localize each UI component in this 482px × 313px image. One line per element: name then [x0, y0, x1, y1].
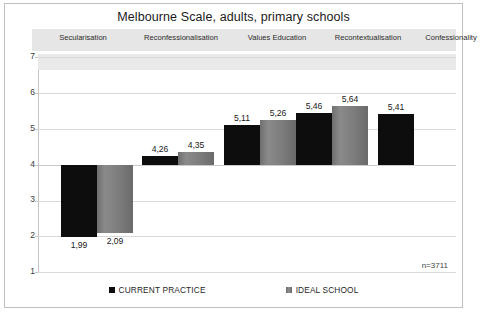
bar-current-values-education[interactable]	[224, 125, 260, 165]
bar-label-current-secularisation: 1,99	[59, 240, 99, 250]
y-tick-label-1: 1	[13, 266, 35, 276]
legend-entry-current-practice[interactable]: CURRENT PRACTICE	[109, 285, 206, 295]
plot-area: 1,99 2,09 4,26 4,35 5,11 5,26 5,46 5,64 …	[38, 54, 456, 276]
bar-label-ideal-recontextualisation: 5,64	[330, 94, 370, 104]
category-label-secularisation: Secularisation	[32, 33, 134, 42]
y-tick-label-2: 2	[13, 230, 35, 240]
y-tick-label-3: 3	[13, 194, 35, 204]
bar-ideal-recontextualisation[interactable]	[332, 106, 368, 165]
category-label-band: Secularisation Reconfessionalisation Val…	[32, 29, 456, 51]
category-label-reconfessionalisation: Reconfessionalisation	[126, 33, 236, 42]
legend-swatch-icon-current	[109, 287, 115, 293]
bar-label-current-confessionality: 5,41	[376, 102, 416, 112]
chart-container: Melbourne Scale, adults, primary schools…	[4, 3, 463, 308]
bar-ideal-secularisation[interactable]	[97, 165, 133, 233]
gridline-7	[38, 57, 456, 58]
bar-ideal-values-education[interactable]	[260, 120, 296, 165]
y-tick-label-5: 5	[13, 123, 35, 133]
legend-label-ideal-school: IDEAL SCHOOL	[296, 285, 359, 295]
bar-current-confessionality[interactable]	[378, 114, 414, 165]
legend-swatch-icon-ideal	[286, 287, 292, 293]
bar-current-recontextualisation[interactable]	[296, 113, 332, 165]
chart-title: Melbourne Scale, adults, primary schools	[5, 10, 462, 24]
category-label-values-education: Values Education	[231, 33, 323, 42]
legend-entry-ideal-school[interactable]: IDEAL SCHOOL	[286, 285, 359, 295]
bar-label-current-values-education: 5,11	[222, 113, 262, 123]
chart-legend: CURRENT PRACTICE IDEAL SCHOOL	[5, 285, 462, 295]
y-tick-label-4: 4	[13, 159, 35, 169]
bar-label-ideal-reconfessionalisation: 4,35	[176, 140, 216, 150]
gridline-6	[38, 93, 456, 94]
category-label-confessionality: Confessionality	[407, 33, 482, 42]
bar-label-ideal-values-education: 5,26	[258, 108, 298, 118]
sample-size-annotation: n=3711	[422, 261, 448, 270]
bar-label-ideal-secularisation: 2,09	[95, 236, 135, 246]
category-label-recontextualisation: Recontextualisation	[314, 33, 422, 42]
bar-current-reconfessionalisation[interactable]	[142, 156, 178, 165]
gridline-1	[38, 272, 456, 273]
bar-label-current-recontextualisation: 5,46	[294, 101, 334, 111]
bar-label-current-reconfessionalisation: 4,26	[140, 144, 180, 154]
bar-current-secularisation[interactable]	[61, 165, 97, 237]
bar-ideal-reconfessionalisation[interactable]	[178, 152, 214, 165]
y-tick-label-7: 7	[13, 51, 35, 61]
legend-label-current-practice: CURRENT PRACTICE	[119, 285, 206, 295]
y-tick-label-6: 6	[13, 87, 35, 97]
